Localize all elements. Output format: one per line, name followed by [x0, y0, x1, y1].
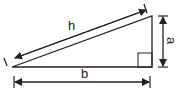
base-label: b [81, 66, 88, 81]
hypotenuse-arrow-line-reverse [15, 10, 146, 58]
hypotenuse-tick-right [144, 4, 147, 13]
triangle-outline [12, 16, 152, 67]
right-triangle-diagram: h a b [0, 0, 178, 93]
vertical-dimension: a [158, 16, 178, 67]
base-dimension: b [14, 66, 150, 88]
hypotenuse-label: h [68, 18, 75, 33]
hypotenuse-dimension: h [4, 4, 147, 66]
vertical-side-label: a [164, 37, 178, 45]
right-angle-marker [138, 53, 152, 67]
triangle [12, 16, 152, 67]
hypotenuse-tick-left [4, 58, 7, 66]
